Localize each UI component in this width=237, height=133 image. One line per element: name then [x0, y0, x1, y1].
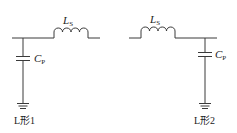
- inductor-ls-2: [129, 27, 175, 38]
- circuit-diagram: LS CP L形1 LS CP: [0, 0, 237, 133]
- circuit-l-type-2: LS CP L形2: [129, 13, 226, 126]
- inductor-label-1: LS: [62, 14, 73, 28]
- circuit-label-2: L形2: [194, 115, 215, 126]
- capacitor-label-1: CP: [34, 52, 45, 66]
- ground-icon: [199, 104, 211, 109]
- capacitor-cp-1: [16, 57, 30, 61]
- ground-icon: [17, 104, 29, 109]
- inductor-ls-1: [54, 28, 100, 38]
- circuit-l-type-1: LS CP L形1: [12, 14, 100, 126]
- capacitor-cp-2: [198, 53, 212, 57]
- inductor-label-2: LS: [149, 13, 160, 27]
- circuit-label-1: L形1: [14, 115, 35, 126]
- capacitor-label-2: CP: [215, 48, 226, 62]
